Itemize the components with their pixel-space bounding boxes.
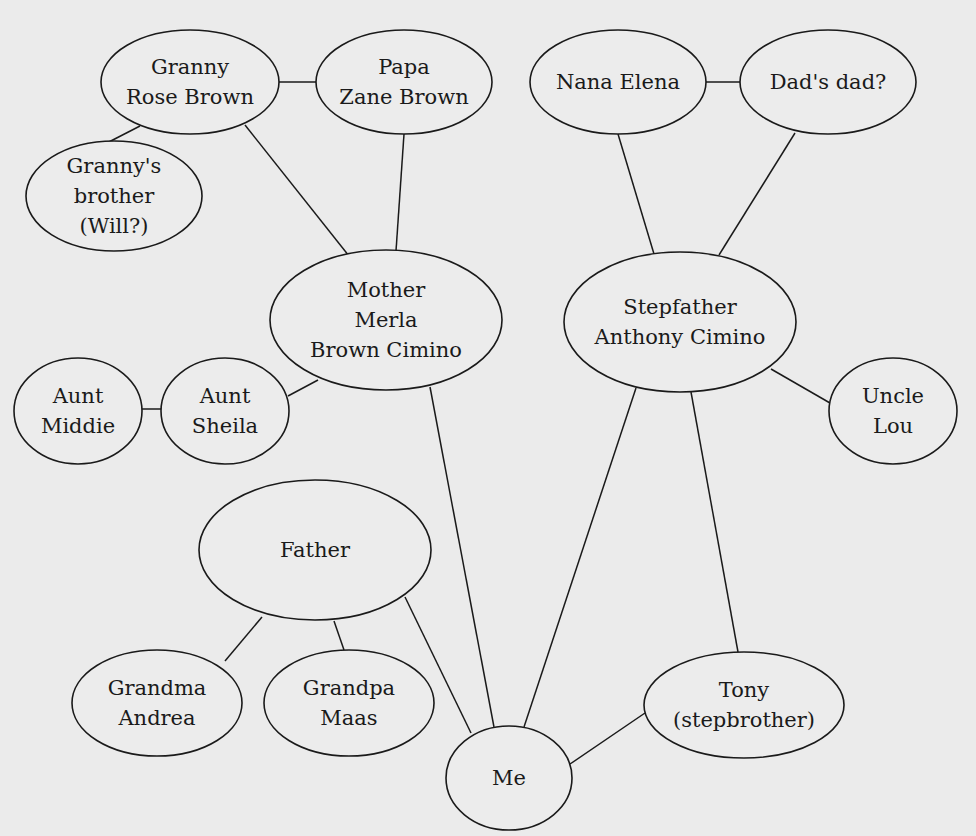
node-ellipse — [72, 650, 242, 756]
node-stepfather: StepfatherAnthony Cimino — [564, 252, 796, 392]
node-label-line: Aunt — [199, 384, 251, 408]
node-mother: MotherMerlaBrown Cimino — [270, 250, 502, 390]
node-label-line: Maas — [320, 706, 377, 730]
person-nodes: GrannyRose BrownPapaZane BrownGranny'sbr… — [14, 30, 957, 830]
node-label-line: Me — [492, 766, 526, 790]
node-label-line: brother — [74, 184, 156, 208]
node-label-line: Father — [280, 538, 351, 562]
node-ellipse — [829, 358, 957, 464]
edge-mother-to-me — [430, 387, 494, 727]
node-label-line: Grandma — [108, 676, 207, 700]
node-label-line: Granny — [151, 55, 229, 79]
node-grandpa-maas: GrandpaMaas — [264, 650, 434, 756]
node-ellipse — [101, 30, 279, 134]
node-ellipse — [161, 358, 289, 464]
node-label-line: Uncle — [862, 384, 924, 408]
node-label-line: Rose Brown — [126, 85, 254, 109]
edge-papa-to-mother — [396, 134, 404, 251]
node-ellipse — [316, 30, 492, 134]
node-grandma-andrea: GrandmaAndrea — [72, 650, 242, 756]
node-label-line: Lou — [873, 414, 913, 438]
edge-granny-to-mother — [245, 125, 349, 256]
node-father: Father — [199, 480, 431, 620]
node-label-line: Brown Cimino — [310, 338, 462, 362]
edge-dads-dad-to-stepfather — [719, 133, 795, 255]
node-ellipse — [564, 252, 796, 392]
node-label-line: (stepbrother) — [673, 708, 815, 732]
diagram-canvas: GrannyRose BrownPapaZane BrownGranny'sbr… — [0, 0, 976, 836]
node-ellipse — [644, 652, 844, 758]
node-nana: Nana Elena — [530, 30, 706, 134]
node-label-line: Granny's — [67, 154, 162, 178]
node-granny: GrannyRose Brown — [101, 30, 279, 134]
node-label-line: Stepfather — [623, 295, 737, 319]
node-label-line: Middie — [41, 414, 115, 438]
edge-aunt-sheila-to-mother — [288, 380, 318, 396]
node-label-line: Zane Brown — [339, 85, 468, 109]
node-label-line: Aunt — [52, 384, 104, 408]
node-me: Me — [446, 726, 572, 830]
node-aunt-sheila: AuntSheila — [161, 358, 289, 464]
node-uncle-lou: UncleLou — [829, 358, 957, 464]
edge-stepfather-to-tony — [691, 392, 738, 652]
family-diagram: GrannyRose BrownPapaZane BrownGranny'sbr… — [0, 0, 976, 836]
node-aunt-middie: AuntMiddie — [14, 358, 142, 464]
node-label-line: Grandpa — [303, 676, 395, 700]
node-tony: Tony(stepbrother) — [644, 652, 844, 758]
node-label-line: Tony — [719, 678, 770, 702]
edge-stepfather-to-uncle-lou — [771, 369, 830, 403]
edge-father-to-grandma-andrea — [225, 617, 262, 661]
node-ellipse — [14, 358, 142, 464]
node-label-line: (Will?) — [79, 214, 148, 238]
edge-nana-to-stepfather — [618, 134, 654, 254]
node-label-line: Andrea — [117, 706, 195, 730]
edge-stepfather-to-me — [524, 388, 636, 727]
node-papa: PapaZane Brown — [316, 30, 492, 134]
node-granny-brother: Granny'sbrother(Will?) — [26, 141, 202, 251]
node-label-line: Mother — [347, 278, 427, 302]
edge-me-to-tony — [570, 713, 645, 764]
node-label-line: Nana Elena — [556, 70, 680, 94]
node-label-line: Papa — [378, 55, 430, 79]
node-label-line: Anthony Cimino — [594, 325, 766, 349]
node-dads-dad: Dad's dad? — [740, 30, 916, 134]
edge-father-to-grandpa-maas — [334, 621, 344, 650]
node-label-line: Dad's dad? — [770, 70, 887, 94]
node-label-line: Sheila — [192, 414, 258, 438]
node-ellipse — [264, 650, 434, 756]
node-label-line: Merla — [354, 308, 417, 332]
